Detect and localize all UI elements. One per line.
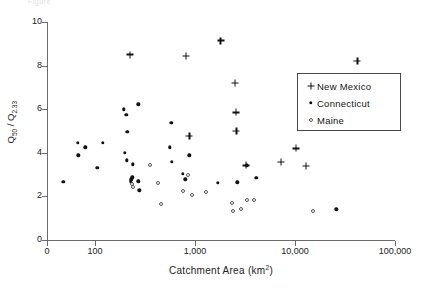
data-point xyxy=(186,173,190,177)
data-point xyxy=(252,198,256,202)
data-point xyxy=(239,207,243,211)
data-point xyxy=(77,154,80,157)
data-point xyxy=(236,181,239,184)
legend-item-maine: Maine xyxy=(305,112,344,128)
legend-marker-dot-icon xyxy=(305,97,317,109)
data-point xyxy=(125,159,128,162)
data-point xyxy=(181,172,184,175)
plot-area xyxy=(47,22,395,240)
legend-item-new-mexico: New Mexico xyxy=(305,78,371,94)
x-tick-label: 100 xyxy=(65,247,125,256)
data-point xyxy=(293,145,300,152)
data-point xyxy=(255,176,258,179)
data-point xyxy=(127,51,134,58)
data-point xyxy=(277,158,284,165)
y-tick-label: 4 xyxy=(20,148,42,157)
data-point xyxy=(170,121,173,124)
data-point xyxy=(335,208,338,211)
data-point xyxy=(123,151,126,154)
x-axis-title: Catchment Area (km2) xyxy=(47,264,395,276)
y-tick-label: 2 xyxy=(20,191,42,200)
data-point xyxy=(126,130,129,133)
data-point xyxy=(131,162,134,165)
data-point xyxy=(311,209,315,213)
data-point xyxy=(186,132,193,139)
x-axis-line xyxy=(47,240,395,241)
legend-label: New Mexico xyxy=(317,81,371,92)
data-point xyxy=(101,141,104,144)
data-point xyxy=(184,178,187,181)
data-point xyxy=(156,181,160,185)
y-tick-label: 6 xyxy=(20,104,42,113)
y-tick-label: 0 xyxy=(20,235,42,244)
figure-top-note: Figure xyxy=(28,0,51,5)
data-point xyxy=(181,189,185,193)
data-point xyxy=(302,162,309,169)
data-point xyxy=(61,180,64,183)
legend-marker-circle-icon xyxy=(305,114,317,126)
legend-marker-plus-icon xyxy=(305,80,317,92)
x-tick-label: 100,000 xyxy=(365,247,422,256)
data-point xyxy=(137,103,140,106)
data-point xyxy=(122,107,125,110)
data-point xyxy=(84,146,87,149)
chart-figure: Figure 0246810 01001,00010,000100,000 Q5… xyxy=(0,0,422,288)
data-point xyxy=(230,201,234,205)
data-point xyxy=(95,166,98,169)
data-point xyxy=(217,37,224,44)
y-tick-label: 10 xyxy=(20,17,42,26)
legend-item-connecticut: Connecticut xyxy=(305,95,370,111)
data-point xyxy=(170,160,173,163)
data-point xyxy=(245,198,249,202)
y-axis-title: Q50 / Q2.33 xyxy=(6,79,18,165)
data-point xyxy=(76,141,79,144)
chart-legend: New Mexico Connecticut Maine xyxy=(297,73,401,131)
data-point xyxy=(216,181,219,184)
data-point xyxy=(182,52,189,59)
data-point xyxy=(148,163,152,167)
data-point xyxy=(131,185,135,189)
data-point xyxy=(190,193,194,197)
data-point xyxy=(233,128,240,135)
data-point xyxy=(188,154,191,157)
data-point xyxy=(354,58,361,65)
data-point xyxy=(124,113,127,116)
data-point xyxy=(204,190,208,194)
data-point xyxy=(231,80,238,87)
data-point xyxy=(159,202,163,206)
legend-label: Maine xyxy=(317,115,344,126)
data-point xyxy=(232,109,239,116)
data-point xyxy=(168,146,171,149)
x-tick-label: 10,000 xyxy=(265,247,325,256)
y-tick-label: 8 xyxy=(20,61,42,70)
legend-label: Connecticut xyxy=(317,98,370,109)
x-tick-label: 1,000 xyxy=(165,247,225,256)
data-point xyxy=(231,209,235,213)
data-point xyxy=(136,179,139,182)
data-point xyxy=(138,189,141,192)
